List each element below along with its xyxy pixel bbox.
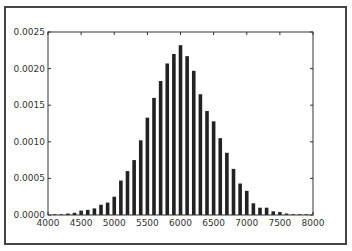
bar <box>258 208 262 215</box>
bar <box>238 184 242 215</box>
bar <box>165 63 169 215</box>
x-tick-label: 6500 <box>202 218 225 228</box>
bar <box>139 140 143 215</box>
bar <box>205 111 209 215</box>
bar <box>159 81 163 215</box>
y-tick-label: 0.0010 <box>14 137 46 147</box>
bar <box>199 94 203 215</box>
bar <box>126 171 130 215</box>
y-tick-label: 0.0005 <box>14 173 46 183</box>
bar <box>192 71 196 215</box>
x-tick-label: 7000 <box>235 218 258 228</box>
x-tick-label: 4500 <box>70 218 93 228</box>
bar <box>119 181 123 215</box>
bar <box>185 56 189 215</box>
bar <box>212 121 216 215</box>
bar <box>132 160 136 215</box>
bar <box>99 205 103 215</box>
y-tick-label: 0.0025 <box>14 27 46 37</box>
bar <box>232 169 236 215</box>
bar <box>172 54 176 215</box>
bar <box>225 153 229 215</box>
y-tick-label: 0.0015 <box>14 100 46 110</box>
x-tick-label: 7500 <box>268 218 291 228</box>
bar <box>86 210 90 215</box>
x-tick-label: 5000 <box>103 218 126 228</box>
bar <box>179 45 183 215</box>
y-tick-label: 0.0020 <box>14 64 46 74</box>
x-tick-label: 8000 <box>302 218 325 228</box>
bar <box>252 203 256 215</box>
bar <box>93 208 97 215</box>
x-tick-label: 6000 <box>169 218 192 228</box>
y-tick-label: 0.0000 <box>14 210 46 220</box>
bar <box>218 138 222 215</box>
bar <box>265 208 269 215</box>
bar <box>152 98 156 215</box>
x-tick-label: 5500 <box>136 218 159 228</box>
bar <box>245 191 249 215</box>
bar <box>271 211 275 215</box>
bar-chart: 4000450050005500600065007000750080000.00… <box>0 0 352 251</box>
bar <box>146 118 150 215</box>
bar <box>106 203 110 215</box>
